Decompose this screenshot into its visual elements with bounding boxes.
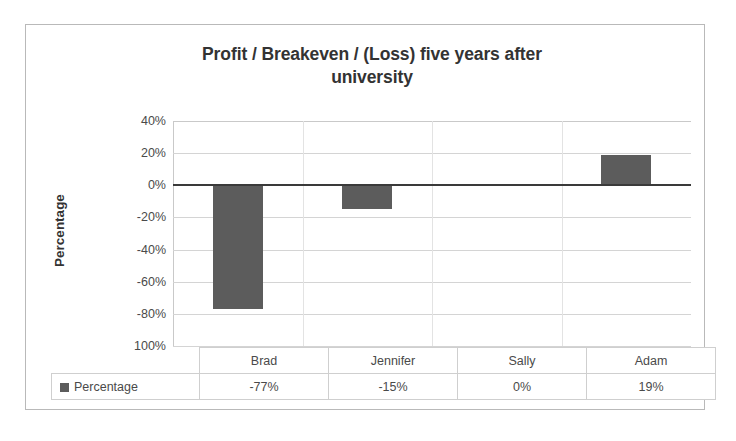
bar-brad[interactable] (213, 185, 263, 309)
y-axis-tick-label: -60% (104, 275, 166, 289)
data-table: BradJenniferSallyAdam Percentage -77%-15… (51, 347, 716, 400)
y-axis-title: Percentage (52, 171, 67, 291)
bar-slot-jennifer (303, 121, 433, 346)
y-axis-tick-label: 0% (104, 178, 166, 192)
chart-title-line-1: Profit / Breakeven / (Loss) five years a… (122, 43, 622, 66)
plot-area (173, 121, 691, 346)
table-value-adam: 19% (587, 374, 716, 400)
legend-cell: Percentage (52, 374, 200, 400)
chart-title: Profit / Breakeven / (Loss) five years a… (122, 43, 622, 90)
y-axis-tick-label: 20% (104, 146, 166, 160)
chart-title-line-2: university (122, 66, 622, 89)
table-value-brad: -77% (200, 374, 329, 400)
table-header-jennifer: Jennifer (329, 348, 458, 374)
bar-jennifer[interactable] (342, 185, 392, 209)
y-axis-tick-label: -20% (104, 210, 166, 224)
table-header-sally: Sally (458, 348, 587, 374)
y-axis-tick-label: 40% (104, 114, 166, 128)
y-axis-tick-labels: 40%20%0%-20%-40%-60%-80%100% (104, 121, 166, 346)
legend-swatch-icon (60, 383, 69, 392)
table-value-sally: 0% (458, 374, 587, 400)
table-header-adam: Adam (587, 348, 716, 374)
bar-slot-sally (432, 121, 562, 346)
bar-slot-adam (562, 121, 692, 346)
y-axis-tick-label: -40% (104, 243, 166, 257)
table-corner-blank (52, 348, 200, 374)
table-row-values: Percentage -77%-15%0%19% (52, 374, 716, 400)
y-axis-tick-label: -80% (104, 307, 166, 321)
table-header-brad: Brad (200, 348, 329, 374)
table-value-jennifer: -15% (329, 374, 458, 400)
bar-slot-brad (173, 121, 303, 346)
chart-frame: Profit / Breakeven / (Loss) five years a… (25, 24, 705, 410)
table-row-headers: BradJenniferSallyAdam (52, 348, 716, 374)
legend-series-label: Percentage (74, 380, 138, 394)
zero-line (173, 184, 691, 186)
bar-adam[interactable] (601, 155, 651, 186)
